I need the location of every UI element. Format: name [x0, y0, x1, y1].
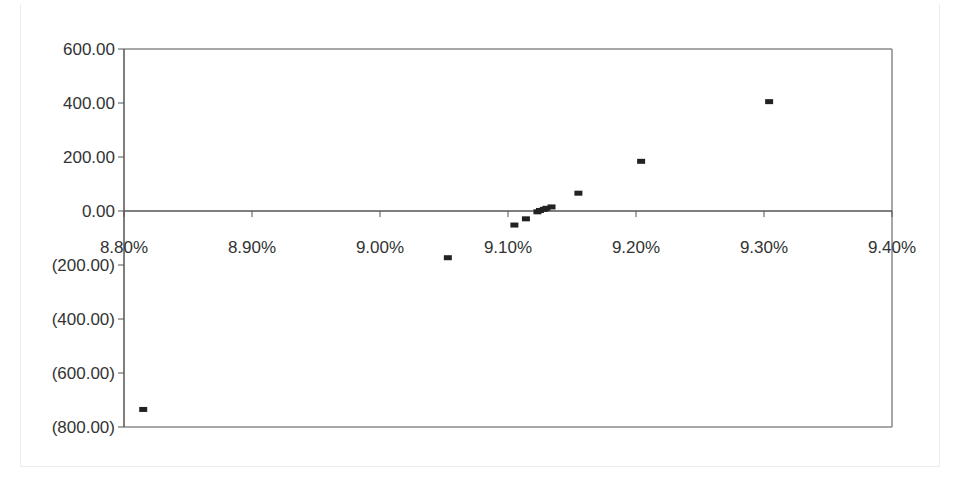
- x-tick-label: 9.00%: [356, 238, 404, 257]
- data-point-marker: [522, 216, 530, 221]
- y-tick-label: (600.00): [52, 364, 115, 383]
- data-point-marker: [765, 99, 773, 104]
- y-tick-label: 0.00: [82, 202, 115, 221]
- x-axis: [124, 211, 892, 217]
- data-point-marker: [510, 223, 518, 228]
- data-point-marker: [574, 191, 582, 196]
- data-point-marker: [548, 204, 556, 209]
- y-tick-label: (200.00): [52, 256, 115, 275]
- y-tick-label: (800.00): [52, 418, 115, 437]
- y-tick-label: (400.00): [52, 310, 115, 329]
- x-tick-label: 8.80%: [100, 238, 148, 257]
- scatter-chart: 600.00400.00200.000.00(200.00)(400.00)(6…: [0, 0, 953, 477]
- x-axis-tick-labels: 8.80%8.90%9.00%9.10%9.20%9.30%9.40%: [100, 238, 916, 257]
- x-tick-label: 9.30%: [740, 238, 788, 257]
- data-point-marker: [637, 159, 645, 164]
- x-tick-label: 9.40%: [868, 238, 916, 257]
- y-tick-label: 200.00: [63, 148, 115, 167]
- x-tick-label: 9.10%: [484, 238, 532, 257]
- y-tick-label: 600.00: [63, 40, 115, 59]
- x-tick-label: 9.20%: [612, 238, 660, 257]
- x-tick-label: 8.90%: [228, 238, 276, 257]
- data-point-marker: [139, 407, 147, 412]
- y-tick-label: 400.00: [63, 94, 115, 113]
- data-point-marker: [444, 255, 452, 260]
